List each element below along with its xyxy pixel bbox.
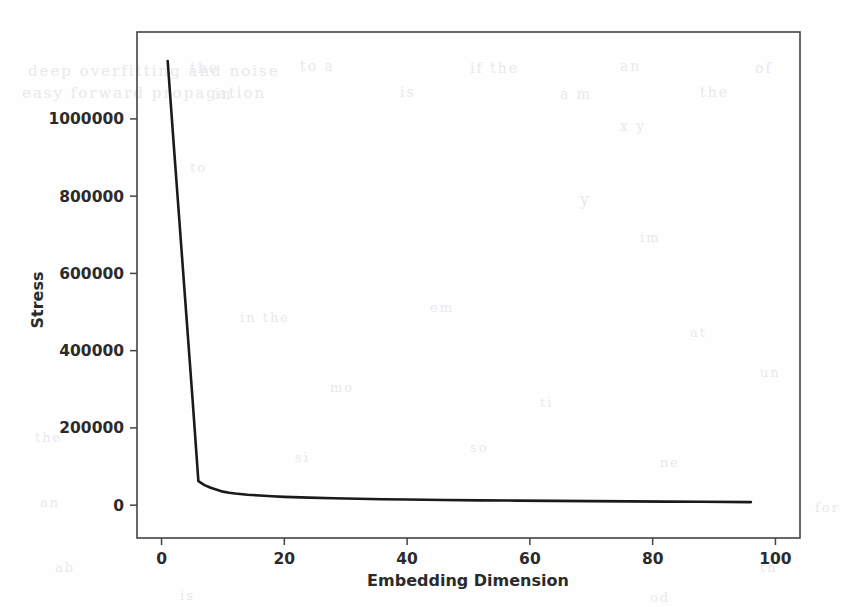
axes-frame — [137, 32, 800, 538]
y-axis-title: Stress — [28, 272, 47, 329]
y-tick-label: 0 — [113, 497, 124, 515]
x-tick-label: 20 — [274, 550, 296, 568]
stress-curve — [168, 61, 751, 502]
x-tick-label: 0 — [156, 550, 167, 568]
y-tick-label: 800000 — [59, 188, 124, 206]
x-tick-label: 100 — [759, 550, 792, 568]
scree-plot-chart: 020406080100 020000040000060000080000010… — [0, 0, 844, 607]
x-tick-label: 60 — [519, 550, 541, 568]
y-axis-ticks: 02000004000006000008000001000000 — [49, 110, 138, 514]
x-tick-label: 40 — [396, 550, 418, 568]
y-tick-label: 400000 — [59, 342, 124, 360]
x-tick-label: 80 — [642, 550, 664, 568]
x-axis-title: Embedding Dimension — [367, 571, 569, 590]
y-tick-label: 600000 — [59, 265, 124, 283]
figure-canvas: deep overfitting and noiseeasy forward p… — [0, 0, 844, 607]
y-tick-label: 200000 — [59, 419, 124, 437]
y-tick-label: 1000000 — [49, 110, 125, 128]
x-axis-ticks: 020406080100 — [156, 538, 792, 568]
